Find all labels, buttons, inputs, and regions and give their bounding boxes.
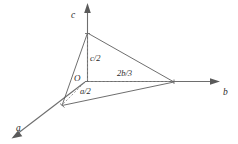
axis-a (12, 82, 86, 139)
intercept-label-c-half: c/2 (90, 54, 100, 63)
axis-c-arrowhead (84, 3, 91, 13)
axis-label-c: c (71, 11, 75, 21)
intercept-label-a-half: a/2 (80, 87, 91, 96)
axis-label-b: b (223, 88, 228, 98)
axis-a-line (17, 82, 85, 134)
axis-label-a: a (16, 124, 21, 134)
intercept-label-two-b-thirds: 2b/3 (117, 69, 132, 78)
diagram-canvas: c b a O c/2 a/2 2b/3 (0, 0, 238, 144)
axis-b-arrowhead (210, 78, 220, 85)
plane-edge-b-to-a (62, 82, 174, 106)
origin-label: O (74, 74, 81, 83)
axis-c (84, 3, 91, 82)
